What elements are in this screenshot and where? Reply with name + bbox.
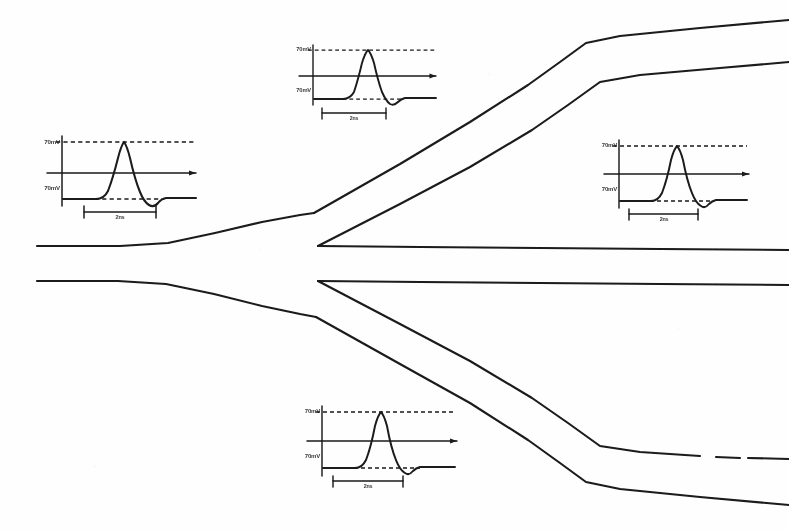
lower-branch-inner-wall-segment-2: [716, 457, 740, 458]
upper-branch-inner-wall: [318, 62, 789, 246]
inset-left-upper-amplitude-label: 70mV: [20, 138, 60, 145]
inset-right: [604, 140, 749, 220]
inset-right-time-label: 2ns: [644, 216, 684, 222]
inset-bottom-x-axis-arrow: [450, 439, 457, 444]
lower-branch-inner-wall: [318, 281, 700, 456]
inset-left-pulse-waveform: [63, 142, 196, 206]
center-channel-lower-wall: [318, 281, 789, 285]
inset-right-pulse-waveform: [620, 146, 747, 207]
inset-top-pulse-waveform: [314, 50, 436, 105]
inset-left: [47, 136, 196, 218]
inset-bottom: [307, 406, 457, 487]
inset-top: [299, 45, 436, 119]
inset-bottom-time-label: 2ns: [348, 483, 388, 489]
main-structure-outlines: [37, 20, 789, 505]
inset-bottom-upper-amplitude-label: 70mV: [281, 408, 320, 414]
center-channel-upper-wall: [318, 246, 789, 250]
input-channel-lower-wall: [37, 281, 316, 317]
inset-bottom-pulse-waveform: [323, 412, 455, 474]
branching-transmission-line-diagram: [0, 0, 789, 530]
inset-top-lower-amplitude-label: 70mV: [273, 87, 311, 93]
lower-branch-inner-wall-segment-3: [748, 458, 789, 459]
inset-left-lower-amplitude-label: 70mV: [20, 184, 60, 191]
inset-top-time-label: 2ns: [334, 115, 374, 121]
inset-left-x-axis-arrow: [189, 170, 196, 175]
input-channel-upper-wall: [37, 213, 314, 246]
inset-right-upper-amplitude-label: 70mV: [578, 142, 617, 148]
inset-left-time-label: 2ns: [100, 214, 140, 220]
inset-right-lower-amplitude-label: 70mV: [578, 186, 617, 192]
figure-root: 70mV 70mV 2ns 70mV 70mV 2ns 70mV 70mV 2n…: [0, 0, 789, 530]
inset-top-x-axis-arrow: [430, 74, 437, 79]
inset-bottom-lower-amplitude-label: 70mV: [281, 453, 320, 459]
inset-right-x-axis-arrow: [742, 172, 749, 177]
inset-top-upper-amplitude-label: 70mV: [273, 46, 311, 52]
